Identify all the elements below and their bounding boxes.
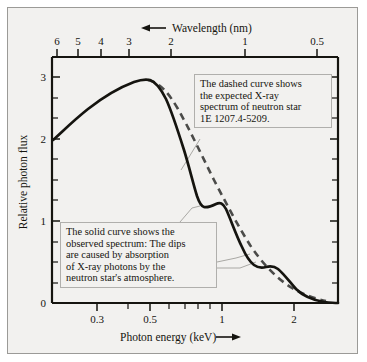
top-tick-label-4: 4 [98, 35, 104, 47]
callout-solid-line-2: observed spectrum: The dips [66, 238, 212, 250]
bottom-tick-label-0.3: 0.3 [90, 313, 104, 325]
left-tick-label-3: 3 [41, 71, 47, 83]
callout-dashed-line-3: spectrum of neutron star [200, 101, 327, 113]
bottom-axis-title: Photon energy (keV) [120, 331, 216, 344]
left-tick-label-0: 0 [41, 297, 47, 309]
top-tick-label-2: 2 [168, 35, 174, 47]
left-axis-title: Relative photon flux [17, 134, 30, 229]
callout-solid-line-1: The solid curve shows the [66, 226, 212, 238]
callout-solid-curve: The solid curve shows the observed spect… [60, 222, 217, 288]
top-axis: 6 5 4 3 2 1 0.5 Wavelength (nm) [52, 22, 338, 57]
bottom-tick-label-2: 2 [291, 313, 297, 325]
bottom-axis: 0.3 0.5 1 2 Photon energy (keV) [52, 303, 338, 344]
left-axis: 0 1 2 3 Relative photon flux [17, 57, 60, 309]
left-tick-label-2: 2 [41, 133, 47, 145]
callout-dashed-line-1: The dashed curve shows [200, 78, 327, 90]
callout-solid-line-4: of X-ray photons by the [66, 261, 212, 273]
callout-solid-line-5: neutron star's atmosphere. [66, 272, 212, 284]
callout-dashed-line-2: the expected X-ray [200, 90, 327, 102]
left-tick-label-1: 1 [41, 215, 47, 227]
top-axis-title: Wavelength (nm) [172, 22, 252, 35]
bottom-tick-label-1: 1 [219, 313, 225, 325]
bottom-tick-label-0.5: 0.5 [143, 313, 157, 325]
top-tick-label-3: 3 [126, 35, 132, 47]
callout-solid-line-3: are caused by absorption [66, 249, 212, 261]
figure-container: 6 5 4 3 2 1 0.5 Wavelength (nm) [0, 0, 367, 362]
callout-dashed-curve: The dashed curve shows the expected X-ra… [194, 74, 332, 128]
top-tick-label-5: 5 [75, 35, 81, 47]
wavelength-arrow-icon [141, 25, 166, 32]
chart-svg: 6 5 4 3 2 1 0.5 Wavelength (nm) [0, 0, 367, 362]
top-tick-label-6: 6 [54, 35, 60, 47]
top-tick-label-1: 1 [242, 35, 248, 47]
callout-dashed-line-4: 1E 1207.4-5209. [200, 113, 327, 125]
top-tick-label-0.5: 0.5 [310, 35, 324, 47]
photon-energy-arrow-icon [216, 334, 241, 341]
